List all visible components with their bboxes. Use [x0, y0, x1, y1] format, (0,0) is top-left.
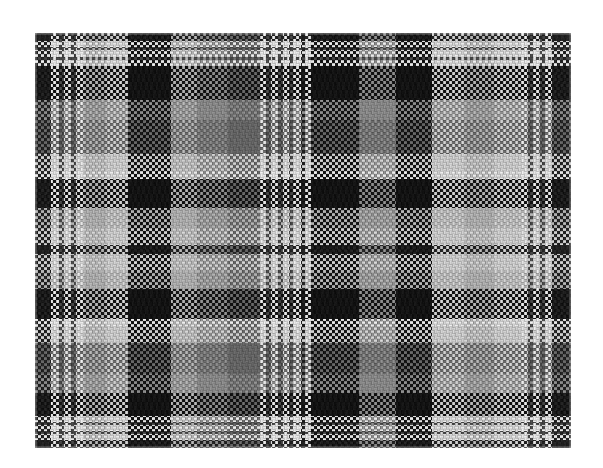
image-canvas: [0, 0, 603, 468]
fabric-swatch: [35, 33, 571, 448]
